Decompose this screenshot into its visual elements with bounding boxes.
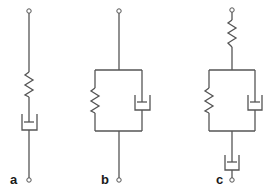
model-label-a: a <box>10 172 18 187</box>
terminal-top <box>27 9 31 13</box>
model-c: c <box>205 8 262 187</box>
terminal-top <box>117 9 121 13</box>
spring-icon <box>91 88 99 113</box>
terminal-top <box>230 8 234 12</box>
terminal-bottom <box>117 178 121 182</box>
spring-icon <box>228 20 236 47</box>
rheology-diagram: a b c <box>0 0 272 195</box>
model-b: b <box>91 9 150 187</box>
terminal-bottom <box>230 178 234 182</box>
spring-icon <box>205 88 213 113</box>
model-label-c: c <box>216 172 223 187</box>
terminal-bottom <box>27 178 31 182</box>
model-a: a <box>10 9 37 187</box>
spring-icon <box>25 72 33 97</box>
model-label-b: b <box>101 172 109 187</box>
